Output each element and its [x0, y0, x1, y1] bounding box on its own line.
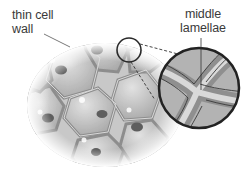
label-line: wall	[12, 22, 53, 36]
cell-wall-diagram: thin cell wall middle lamellae	[0, 0, 241, 170]
label-line: lamellae	[170, 21, 236, 35]
label-line: middle	[170, 7, 236, 21]
label-middle-lamellae: middle lamellae	[170, 7, 236, 35]
label-line: thin cell	[12, 8, 53, 22]
label-thin-cell-wall: thin cell wall	[12, 8, 53, 36]
